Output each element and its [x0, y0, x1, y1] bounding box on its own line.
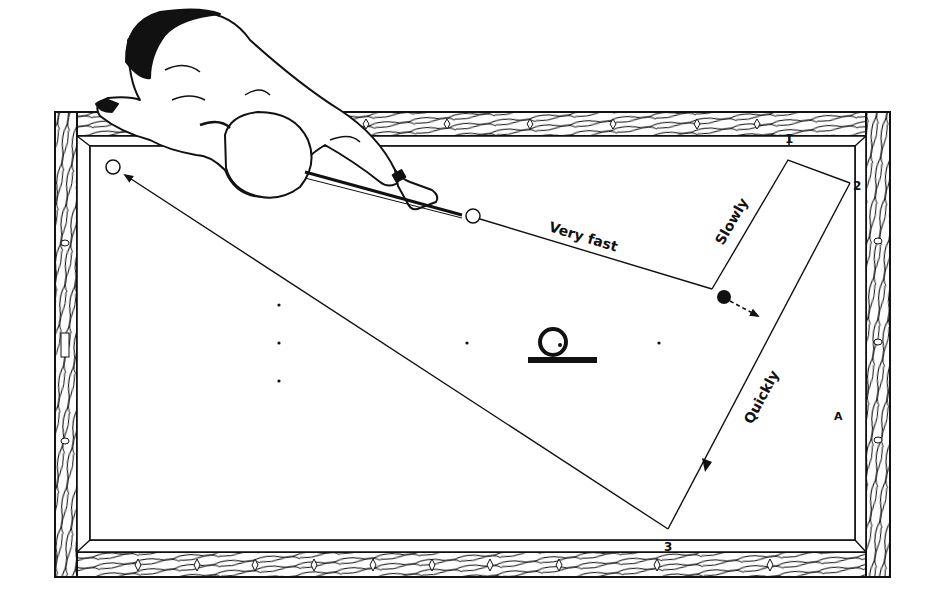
- table-spot: [277, 341, 280, 344]
- rail-number-1: 1: [785, 132, 793, 146]
- target-ball: [106, 160, 120, 174]
- rail-bottom: [55, 552, 890, 577]
- label-marker-a: A: [834, 410, 843, 423]
- table-spot: [465, 341, 468, 344]
- table-spot: [657, 341, 660, 344]
- billiards-diagram: Very fast Slowly Quickly A 1 2 3: [0, 0, 941, 615]
- rail-number-2: 2: [853, 179, 861, 193]
- cue-ball: [466, 209, 480, 223]
- table-spot: [277, 379, 280, 382]
- rail-number-3: 3: [664, 540, 672, 554]
- table-spot: [277, 303, 280, 306]
- object-ball-black: [717, 290, 731, 304]
